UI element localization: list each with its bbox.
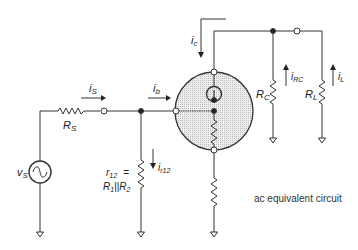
is-arrow-icon: [101, 95, 106, 101]
emitter-branch: [211, 153, 218, 237]
base-node: [173, 108, 179, 114]
ground-icon: [138, 232, 145, 237]
r12-branch: [138, 109, 145, 238]
rs-label: RS: [63, 119, 77, 133]
ground-icon: [270, 138, 277, 143]
rl-label: RL: [305, 88, 317, 102]
output-node: [294, 28, 300, 34]
ib-arrow-icon: [166, 95, 171, 101]
ib-label: ib: [153, 82, 160, 96]
transistor-model: [173, 69, 253, 153]
rs-resistor: [58, 108, 100, 114]
r12-label: r12=: [106, 167, 129, 179]
is-label: iS: [89, 82, 97, 96]
input-node: [101, 108, 107, 114]
ground-icon: [319, 138, 326, 143]
irc-arrow-icon: [283, 64, 289, 70]
r1-parallel-r2-label: R1||R2: [103, 181, 131, 193]
sine-icon: [33, 167, 47, 178]
caption: ac equivalent circuit: [254, 193, 342, 204]
il-label: iL: [338, 71, 344, 83]
vs-label: vS: [17, 166, 29, 180]
collector-node: [211, 69, 217, 75]
ic-arrow-icon: [198, 52, 204, 58]
source-branch: [29, 108, 173, 237]
emitter-node: [211, 147, 217, 153]
il-arrow-icon: [330, 64, 336, 70]
ac-equivalent-circuit: vS RS iS ib ic r12= R1||R2 ir12 RC iRC R…: [0, 0, 358, 250]
rc-label: RC: [256, 88, 270, 102]
ic-label: ic: [191, 34, 197, 48]
ir12-label: ir12: [158, 162, 170, 174]
ir12-arrow-icon: [150, 163, 156, 169]
irc-label: iRC: [291, 71, 304, 83]
ground-icon: [211, 232, 218, 237]
ground-icon: [37, 232, 44, 237]
